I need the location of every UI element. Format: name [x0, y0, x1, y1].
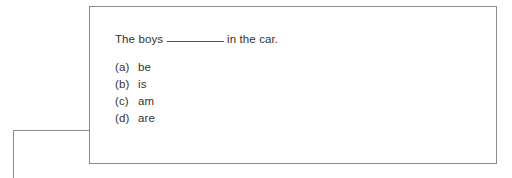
option-a[interactable]: (a) be — [115, 59, 486, 76]
question-card: The boysin the car. (a) be (b) is (c) am… — [89, 6, 497, 164]
option-d-label: are — [138, 110, 155, 127]
option-c[interactable]: (c) am — [115, 93, 486, 110]
option-d-letter: (d) — [115, 110, 138, 127]
option-c-letter: (c) — [115, 93, 138, 110]
answer-blank[interactable] — [167, 30, 224, 42]
screenshot-root: The boysin the car. (a) be (b) is (c) am… — [0, 0, 512, 178]
option-d[interactable]: (d) are — [115, 110, 486, 127]
option-a-letter: (a) — [115, 59, 138, 76]
option-b-label: is — [138, 76, 147, 93]
question-card-content: The boysin the car. (a) be (b) is (c) am… — [115, 30, 486, 127]
stem-text-after-blank: in the car. — [227, 33, 278, 45]
question-stem: The boysin the car. — [115, 30, 486, 46]
option-b[interactable]: (b) is — [115, 76, 486, 93]
option-b-letter: (b) — [115, 76, 138, 93]
option-c-label: am — [138, 93, 154, 110]
option-a-label: be — [138, 59, 151, 76]
answer-options-list: (a) be (b) is (c) am (d) are — [115, 59, 486, 127]
stem-text-before-blank: The boys — [115, 33, 163, 45]
